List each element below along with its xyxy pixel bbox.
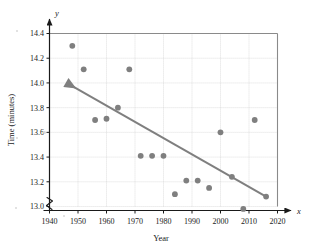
- paper-speck: [63, 215, 65, 217]
- data-point: [195, 178, 201, 184]
- x-axis-symbol: x: [296, 206, 301, 216]
- paper-speck: [16, 137, 18, 139]
- data-point: [115, 105, 121, 111]
- data-point: [252, 117, 258, 123]
- data-point: [81, 66, 87, 72]
- y-tick-label-13_8: 13.8: [30, 104, 44, 113]
- data-point: [172, 191, 178, 197]
- paper-speck: [43, 131, 46, 134]
- y-axis-title: Time (minutes): [6, 94, 16, 147]
- paper-speck: [15, 207, 17, 209]
- data-point: [69, 43, 75, 49]
- paper-speck: [16, 30, 18, 32]
- y-tick-label-13: 13.0: [30, 202, 44, 211]
- x-tick-label-1950: 1950: [70, 217, 86, 226]
- y-tick-label-14: 14.0: [30, 79, 44, 88]
- x-axis-title: Year: [153, 233, 169, 243]
- y-tick-label-13_6: 13.6: [30, 128, 44, 137]
- x-tick-label-1970: 1970: [127, 217, 143, 226]
- x-tick-label-1990: 1990: [184, 217, 200, 226]
- data-point: [104, 116, 110, 122]
- data-point: [263, 194, 269, 200]
- y-axis-symbol: y: [54, 8, 59, 18]
- x-tick-label-2010: 2010: [241, 217, 257, 226]
- data-point: [92, 117, 98, 123]
- x-tick-label-1980: 1980: [156, 217, 172, 226]
- data-point: [206, 185, 212, 191]
- data-point: [149, 153, 155, 159]
- x-tick-group: 194019501960197019801990200020102020: [42, 211, 286, 226]
- y-tick-label-14_2: 14.2: [30, 54, 44, 63]
- chart-canvas: 13.013.213.413.613.814.014.214.419401950…: [0, 0, 313, 250]
- scatter-chart: 13.013.213.413.613.814.014.214.419401950…: [0, 0, 313, 250]
- data-point: [126, 66, 132, 72]
- y-tick-group: 13.013.213.413.613.814.014.214.4: [30, 29, 50, 211]
- data-point: [161, 153, 167, 159]
- x-tick-label-1960: 1960: [99, 217, 115, 226]
- y-tick-label-13_4: 13.4: [30, 153, 44, 162]
- y-tick-label-13_2: 13.2: [30, 178, 44, 187]
- x-tick-label-1940: 1940: [42, 217, 58, 226]
- data-point: [138, 153, 144, 159]
- data-point: [183, 178, 189, 184]
- data-point: [229, 174, 235, 180]
- x-tick-label-2000: 2000: [213, 217, 229, 226]
- data-point: [240, 206, 246, 212]
- y-tick-label-14_4: 14.4: [30, 29, 44, 38]
- x-tick-label-2020: 2020: [270, 217, 286, 226]
- data-point: [218, 129, 224, 135]
